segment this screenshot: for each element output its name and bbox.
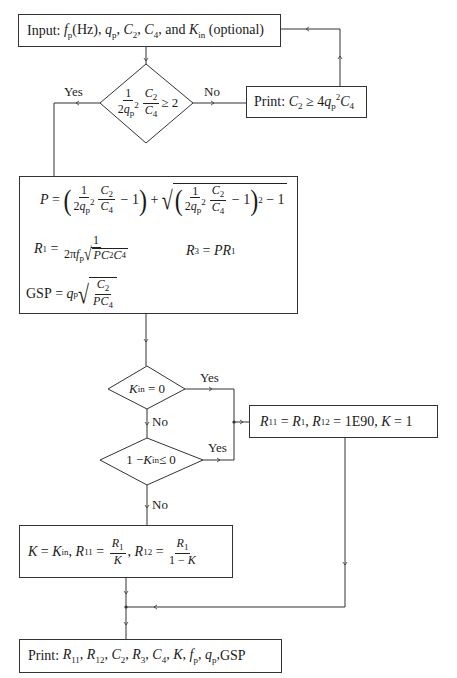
decision-kin-ge-one: 1 − Kin ≤ 0 bbox=[106, 451, 196, 469]
label-yes-kin-zero: Yes bbox=[200, 370, 219, 386]
set-k-node: K = Kin, R11 = R1K, R12 = R11 − K bbox=[19, 525, 233, 578]
decision-ratio-rhs: ≥ 2 bbox=[161, 95, 178, 111]
label-no-ratio: No bbox=[204, 84, 220, 100]
fraction-one-over-2qp2: 12qp2 bbox=[118, 87, 139, 118]
edge-ratio-yes bbox=[54, 103, 100, 176]
decision-kin-ge-one-rhs: ≤ 0 bbox=[159, 452, 176, 468]
input-vars: fp(Hz), qp, C2, C4, and Kin (optional) bbox=[64, 22, 264, 40]
compute-node: P = ( 12qp2 C2C4 − 1) + √( 12qp2 C2C4 − … bbox=[19, 176, 298, 314]
equation-r3: R3 = PR1 bbox=[186, 243, 236, 259]
label-no-kin-zero: No bbox=[152, 414, 168, 430]
print-result-vars: R11, R12, C2, R3, C4, K, fp, qp, bbox=[63, 647, 220, 665]
print-result-node: Print: R11, R12, C2, R3, C4, K, fp, qp, … bbox=[19, 639, 282, 673]
equation-p: P = ( 12qp2 C2C4 − 1) + √( 12qp2 C2C4 − … bbox=[40, 183, 287, 217]
default-k-node: R11 = R1, R12 = 1E90, K = 1 bbox=[249, 405, 438, 438]
print-result-tail: GSP bbox=[220, 648, 246, 664]
equation-gsp: GSP = qp√C2PC4 bbox=[26, 277, 117, 311]
print-result-prefix: Print: bbox=[28, 648, 59, 664]
print-error-expr: C2 ≥ 4qp2C4 bbox=[289, 92, 354, 111]
label-no-kin-ge-one: No bbox=[152, 497, 168, 513]
label-yes-ratio: Yes bbox=[64, 84, 83, 100]
sqrt-symbol: √( 12qp2 C2C4 − 1)2 − 1 bbox=[162, 183, 287, 217]
input-prefix: Input: bbox=[27, 23, 60, 39]
default-r12-value: 1E90 bbox=[345, 414, 375, 430]
decision-kin-zero-rhs: = 0 bbox=[148, 381, 165, 397]
input-node: Input: fp(Hz), qp, C2, C4, and Kin (opti… bbox=[18, 14, 281, 47]
print-error-prefix: Print: bbox=[254, 94, 285, 110]
decision-kin-ge-one-lhs: 1 − bbox=[126, 452, 143, 468]
edge-error-to-input bbox=[280, 29, 340, 86]
print-error-node: Print: C2 ≥ 4qp2C4 bbox=[246, 86, 367, 118]
decision-ratio-check: 12qp2 C2C4 ≥ 2 bbox=[108, 85, 186, 121]
fraction-c2-over-c4: C2C4 bbox=[143, 87, 160, 120]
decision-kin-zero: Kin = 0 bbox=[116, 380, 178, 398]
label-yes-kin-ge-one: Yes bbox=[208, 440, 227, 456]
equation-r1: R1 = 12πfp√PC2C4 bbox=[34, 234, 130, 263]
